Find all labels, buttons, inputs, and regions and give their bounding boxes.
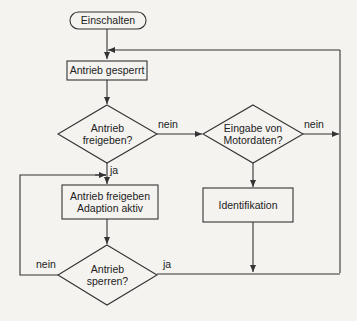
motordata-decision: Eingabe von Motordaten? <box>203 122 303 146</box>
enabled-box-line2: Adaption aktiv <box>62 202 158 214</box>
lock-no-label: nein <box>36 258 56 270</box>
flowchart-lines <box>0 0 357 321</box>
enabled-box: Antrieb freigeben Adaption aktiv <box>62 190 158 214</box>
enable-yes-label: ja <box>110 164 118 176</box>
enable-decision: Antrieb freigeben? <box>58 122 157 146</box>
start-terminator: Einschalten <box>70 14 146 26</box>
enable-decision-line1: Antrieb <box>58 122 157 134</box>
lock-decision: Antrieb sperren? <box>58 263 157 287</box>
identification-box: Identifikation <box>203 199 293 211</box>
motordata-decision-line1: Eingabe von <box>203 122 303 134</box>
enabled-box-line1: Antrieb freigeben <box>62 190 158 202</box>
locked-box: Antrieb gesperrt <box>67 64 147 76</box>
motordata-no-label: nein <box>304 118 324 130</box>
lock-decision-line2: sperren? <box>58 275 157 287</box>
enable-no-label: nein <box>158 118 178 130</box>
lock-decision-line1: Antrieb <box>58 263 157 275</box>
motordata-decision-line2: Motordaten? <box>203 134 303 146</box>
flowchart-canvas: Einschalten Antrieb gesperrt Antrieb fre… <box>0 0 357 321</box>
lock-yes-label: ja <box>163 258 171 270</box>
enable-decision-line2: freigeben? <box>58 134 157 146</box>
